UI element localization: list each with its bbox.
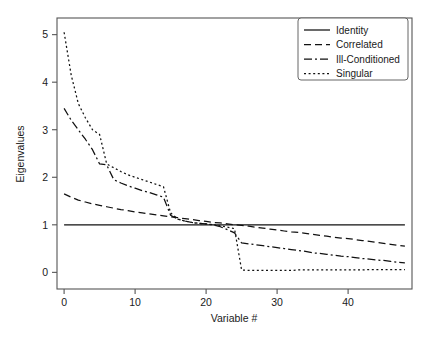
y-tick-label: 1	[42, 219, 48, 231]
y-tick-label: 4	[42, 76, 48, 88]
y-tick-label: 3	[42, 124, 48, 136]
x-tick-label: 40	[342, 296, 354, 308]
x-tick-label: 20	[200, 296, 212, 308]
x-axis-title: Variable #	[211, 312, 258, 324]
y-tick-label: 0	[42, 266, 48, 278]
chart-legend[interactable]: IdentityCorrelatedIll-ConditionedSingula…	[298, 18, 408, 80]
y-tick-label: 5	[42, 28, 48, 40]
figure-canvas: 010203040 012345 Variable # Eigenvalues …	[0, 0, 432, 338]
y-tick-label: 2	[42, 171, 48, 183]
legend-label-identity: Identity	[336, 25, 368, 36]
x-tick-label: 10	[129, 296, 141, 308]
legend-label-ill-conditioned: Ill-Conditioned	[336, 54, 400, 65]
x-tick-label: 30	[271, 296, 283, 308]
y-axis-title: Eigenvalues	[14, 125, 26, 182]
eigenvalues-line-chart: 010203040 012345 Variable # Eigenvalues …	[0, 0, 432, 338]
legend-label-singular: Singular	[336, 68, 373, 79]
legend-label-correlated: Correlated	[336, 39, 383, 50]
y-axis-ticks: 012345	[42, 28, 57, 278]
x-axis-ticks: 010203040	[61, 289, 354, 308]
x-tick-label: 0	[61, 296, 67, 308]
